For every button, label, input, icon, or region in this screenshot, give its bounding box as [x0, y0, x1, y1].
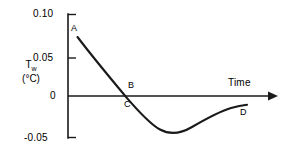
- curve-label-a: A: [71, 23, 77, 33]
- curve-label-b: B: [128, 80, 134, 90]
- y-axis-units: (°C): [12, 73, 50, 84]
- y-axis-title-subscript: w: [32, 65, 37, 72]
- y-tick-label-neg-0.05: -0.05: [24, 132, 48, 143]
- chart-figure: Tw (°C) 0.10 0.05 0 -0.05 Time A B C D: [0, 0, 283, 155]
- y-tick-label-0.10: 0.10: [33, 8, 53, 19]
- x-axis-title: Time: [228, 77, 251, 88]
- y-tick-label-0: 0: [50, 90, 56, 101]
- data-curve: [78, 37, 248, 133]
- y-tick-label-0.05: 0.05: [33, 52, 53, 63]
- curve-label-d: D: [240, 107, 247, 117]
- x-axis-arrowhead: [268, 92, 278, 101]
- curve-label-c: C: [124, 99, 131, 109]
